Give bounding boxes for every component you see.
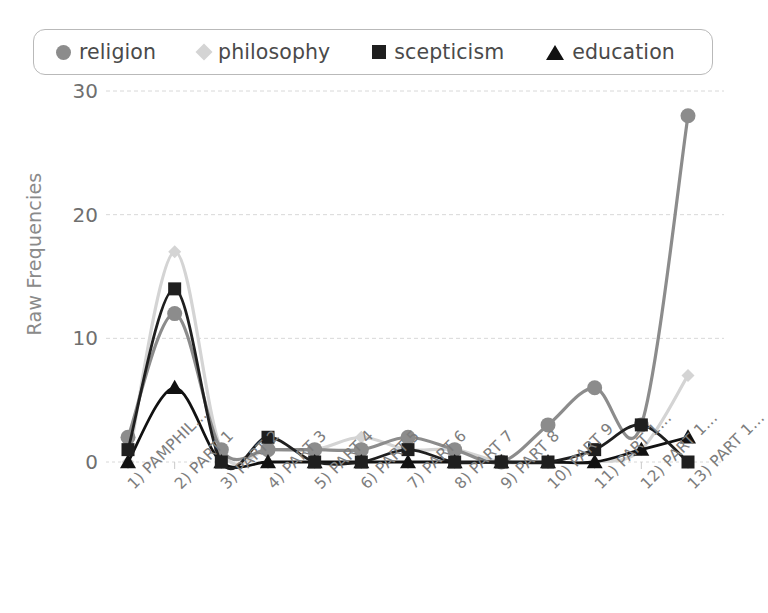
data-point-scepticism xyxy=(168,282,181,295)
data-point-religion xyxy=(167,306,182,321)
y-axis-tick-label: 0 xyxy=(46,450,98,474)
y-axis-tick-label: 30 xyxy=(46,79,98,103)
data-point-religion xyxy=(681,108,696,123)
y-axis-tick-label: 20 xyxy=(46,203,98,227)
y-axis-tick-label: 10 xyxy=(46,326,98,350)
data-point-philosophy xyxy=(682,369,695,382)
data-point-religion xyxy=(587,380,602,395)
data-point-education xyxy=(167,380,183,394)
data-point-scepticism xyxy=(122,443,135,456)
